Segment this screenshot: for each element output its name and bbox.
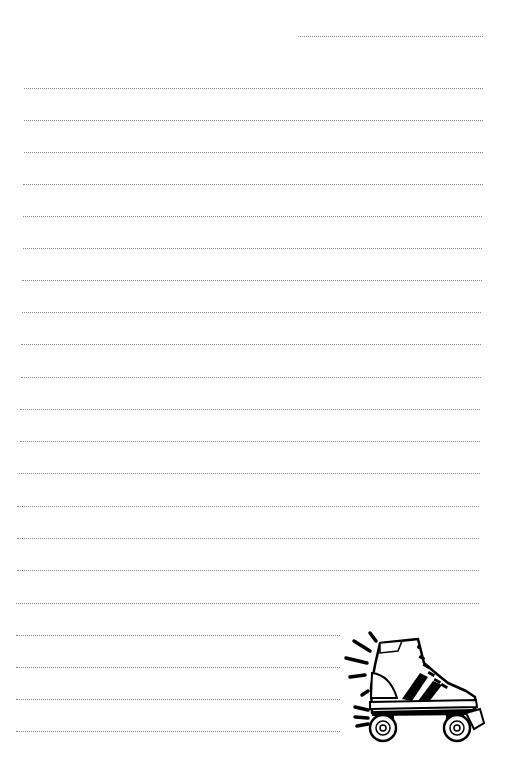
writing-line — [17, 570, 479, 571]
writing-line — [17, 538, 479, 539]
writing-line — [22, 280, 482, 281]
writing-line — [17, 506, 479, 507]
writing-line — [22, 312, 481, 313]
writing-line — [16, 603, 479, 604]
header-line — [298, 36, 483, 37]
writing-line — [21, 377, 481, 378]
roller-skate-icon — [340, 625, 500, 760]
writing-line — [24, 152, 483, 153]
writing-line — [23, 184, 483, 185]
writing-line — [20, 441, 480, 442]
writing-line — [20, 409, 480, 410]
writing-line — [24, 88, 483, 89]
writing-line — [24, 120, 483, 121]
writing-line — [19, 473, 480, 474]
writing-line — [21, 344, 481, 345]
writing-line — [23, 248, 482, 249]
writing-line — [23, 216, 482, 217]
